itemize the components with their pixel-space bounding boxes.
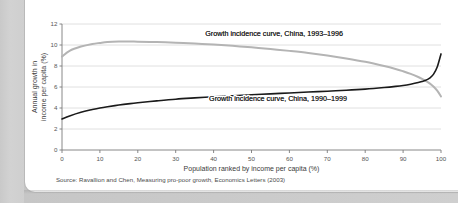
curve-series-1990-1999 bbox=[62, 54, 441, 119]
x-tick-label: 100 bbox=[436, 155, 447, 162]
y-axis-title-line1: Annual growth in bbox=[31, 61, 39, 113]
x-tick-label: 40 bbox=[210, 155, 217, 162]
y-axis-title-line2: income per capita (%) bbox=[40, 53, 48, 121]
annotation-1990-1999: Growth incidence curve, China, 1990–1999 bbox=[209, 94, 347, 103]
y-tick-label: 2 bbox=[54, 125, 58, 132]
x-tick-label: 20 bbox=[134, 155, 141, 162]
chart-container: 0246810120102030405060708090100Populatio… bbox=[24, 0, 458, 203]
annotation-1993-1996: Growth incidence curve, China, 1993–1996 bbox=[205, 29, 343, 38]
y-tick-label: 10 bbox=[51, 41, 58, 48]
y-tick-label: 0 bbox=[54, 146, 58, 153]
x-tick-label: 30 bbox=[172, 155, 179, 162]
x-tick-label: 0 bbox=[60, 155, 64, 162]
y-tick-label: 4 bbox=[54, 104, 58, 111]
x-tick-label: 70 bbox=[324, 155, 331, 162]
x-tick-label: 60 bbox=[286, 155, 293, 162]
y-tick-label: 8 bbox=[54, 62, 58, 69]
y-tick-label: 6 bbox=[54, 83, 58, 90]
growth-incidence-curve-chart: 0246810120102030405060708090100Populatio… bbox=[24, 0, 458, 175]
x-axis-title: Population ranked by income per capita (… bbox=[184, 165, 320, 173]
x-tick-label: 50 bbox=[248, 155, 255, 162]
source-note: Source: Ravallion and Chen, Measuring pr… bbox=[56, 176, 285, 183]
x-tick-label: 80 bbox=[362, 155, 369, 162]
figure-root: 0246810120102030405060708090100Populatio… bbox=[0, 0, 458, 203]
y-tick-label: 12 bbox=[51, 20, 58, 27]
x-tick-label: 90 bbox=[400, 155, 407, 162]
x-tick-label: 10 bbox=[96, 155, 103, 162]
